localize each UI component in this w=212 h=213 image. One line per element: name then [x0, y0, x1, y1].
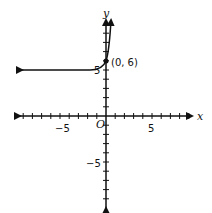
x-axis-label: x — [197, 110, 204, 123]
point-label: (0, 6) — [111, 57, 138, 68]
x-tick-label-neg5: −5 — [55, 123, 70, 134]
y-axis-label: y — [102, 7, 110, 20]
y-tick-label-5: 5 — [94, 65, 100, 76]
y-tick-label-neg5: −5 — [86, 158, 101, 169]
function-curve — [22, 20, 111, 70]
coordinate-graph: (0, 6) x y O −5 5 5 −5 — [0, 0, 212, 213]
origin-label: O — [96, 118, 105, 131]
point-0-6 — [104, 59, 109, 64]
x-tick-label-5: 5 — [148, 123, 154, 134]
